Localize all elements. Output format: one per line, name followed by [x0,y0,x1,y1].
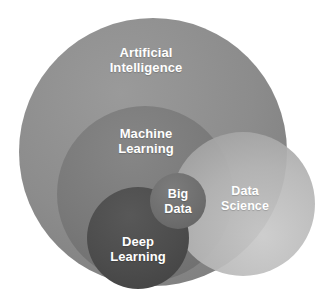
label-data-science: Data Science [205,184,285,214]
label-big-data-line2: Data [150,202,206,217]
label-big-data-line1: Big [150,187,206,202]
label-deep-learning-line1: Deep [92,234,184,249]
label-data-science-line1: Data [205,184,285,199]
label-artificial-intelligence-line1: Artificial [94,45,198,60]
label-machine-learning: Machine Learning [94,126,198,157]
label-data-science-line2: Science [205,199,285,214]
label-deep-learning-line2: Learning [92,249,184,264]
label-artificial-intelligence: Artificial Intelligence [94,45,198,76]
venn-diagram-canvas: Artificial Intelligence Machine Learning… [0,0,329,300]
label-big-data: Big Data [150,187,206,217]
label-machine-learning-line1: Machine [94,126,198,141]
label-machine-learning-line2: Learning [94,141,198,156]
label-artificial-intelligence-line2: Intelligence [94,60,198,75]
label-deep-learning: Deep Learning [92,234,184,265]
